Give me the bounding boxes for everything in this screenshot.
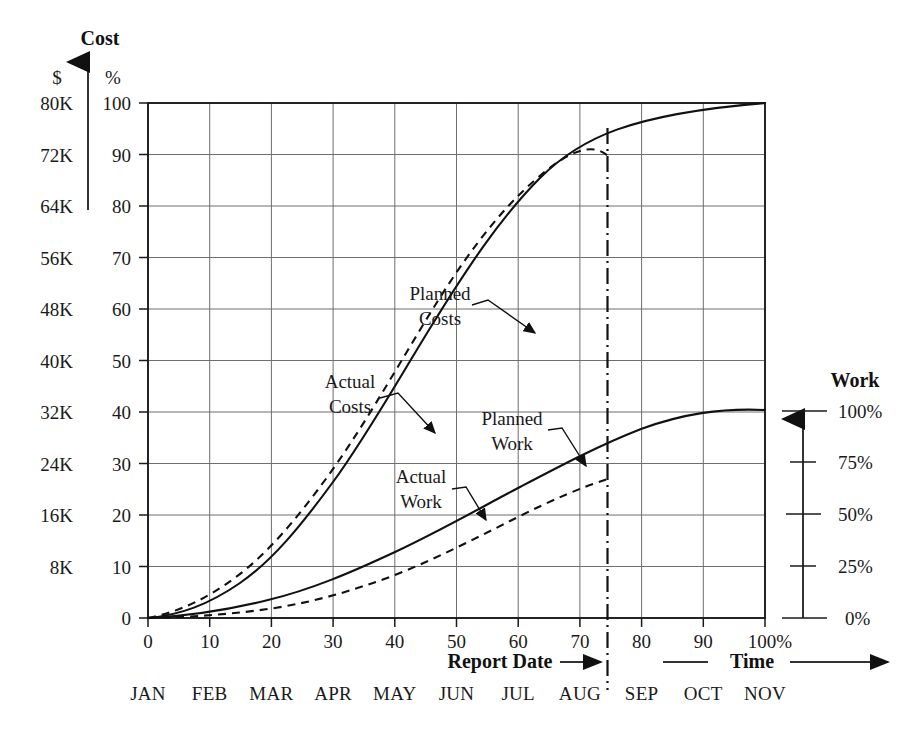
y-percent-tick: 100 xyxy=(103,93,132,114)
work-tick: 0% xyxy=(845,608,871,629)
work-tick: 50% xyxy=(838,504,873,525)
y-dollar-tick: 16K xyxy=(40,505,73,526)
y-percent-tick: 80 xyxy=(112,196,131,217)
month-tick: MAY xyxy=(373,683,417,704)
y-dollar-tick: 8K xyxy=(50,557,74,578)
y-percent-tick: 20 xyxy=(112,505,131,526)
x-tick: 10 xyxy=(200,631,219,652)
y-percent-tick: 90 xyxy=(112,145,131,166)
month-tick: APR xyxy=(314,683,352,704)
x-tick: 30 xyxy=(324,631,343,652)
month-tick: OCT xyxy=(684,683,723,704)
month-tick: SEP xyxy=(625,683,659,704)
y-dollar-tick: 32K xyxy=(40,402,73,423)
y-percent-tick: 50 xyxy=(112,351,131,372)
report-date-label: Report Date xyxy=(448,650,553,673)
y-percent-tick: 40 xyxy=(112,402,131,423)
percent-unit-label: % xyxy=(105,67,121,88)
x-tick: 90 xyxy=(694,631,713,652)
month-tick: JAN xyxy=(130,683,166,704)
x-tick: 0 xyxy=(143,631,153,652)
annotation-line1: Planned xyxy=(481,408,543,429)
month-tick: NOV xyxy=(744,683,786,704)
y-percent-tick: 0 xyxy=(122,608,132,629)
y-percent-tick: 30 xyxy=(112,454,131,475)
y-dollar-tick: 72K xyxy=(40,145,73,166)
dollar-unit-label: $ xyxy=(52,67,62,88)
y-percent-tick: 60 xyxy=(112,299,131,320)
background xyxy=(0,0,906,729)
month-tick: MAR xyxy=(249,683,293,704)
x-tick: 40 xyxy=(385,631,404,652)
annotation-line2: Work xyxy=(400,491,442,512)
annotation-line1: Actual xyxy=(396,466,447,487)
work-tick: 75% xyxy=(838,452,873,473)
x-tick: 60 xyxy=(509,631,528,652)
y-percent-tick: 70 xyxy=(112,248,131,269)
x-tick: 20 xyxy=(262,631,281,652)
month-tick: AUG xyxy=(559,683,601,704)
cost-schedule-s-curve-chart: Cost $ % xyxy=(0,0,906,729)
annotation-line2: Work xyxy=(491,433,533,454)
cost-axis-title: Cost xyxy=(81,27,120,49)
month-tick: JUL xyxy=(501,683,535,704)
month-tick: FEB xyxy=(192,683,228,704)
annotation-line2: Costs xyxy=(329,396,371,417)
x-tick: 50 xyxy=(447,631,466,652)
x-tick: 70 xyxy=(570,631,589,652)
y-percent-tick: 10 xyxy=(112,557,131,578)
y-dollar-tick: 64K xyxy=(40,196,73,217)
month-tick: JUN xyxy=(439,683,475,704)
annotation-line1: Planned xyxy=(409,283,471,304)
x-tick: 100% xyxy=(748,631,793,652)
chart-canvas: Cost $ % xyxy=(0,0,906,729)
work-tick: 25% xyxy=(838,556,873,577)
y-dollar-tick: 24K xyxy=(40,454,73,475)
y-dollar-tick: 56K xyxy=(40,248,73,269)
y-dollar-tick: 48K xyxy=(40,299,73,320)
time-axis-label: Time xyxy=(730,650,774,672)
annotation-line1: Actual xyxy=(325,371,376,392)
work-tick: 100% xyxy=(838,401,883,422)
x-tick: 80 xyxy=(632,631,651,652)
y-dollar-tick: 40K xyxy=(40,351,73,372)
annotation-line2: Costs xyxy=(419,308,461,329)
y-dollar-tick: 80K xyxy=(40,93,73,114)
work-axis-title: Work xyxy=(831,369,881,391)
